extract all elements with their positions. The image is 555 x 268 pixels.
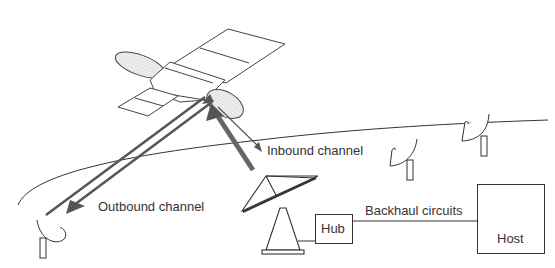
hub-dish-icon xyxy=(242,176,318,254)
outbound-arrowhead xyxy=(66,200,85,214)
remote-terminal-icon xyxy=(462,114,489,156)
remote-terminal-icon xyxy=(37,220,66,258)
remote-terminal-icon xyxy=(390,139,417,180)
inbound-channel-label: Inbound channel xyxy=(267,144,363,157)
diagram-canvas xyxy=(0,0,555,268)
backhaul-label: Backhaul circuits xyxy=(365,204,463,217)
satellite-icon xyxy=(112,29,285,124)
outbound-beam xyxy=(46,97,212,215)
outbound-channel-label: Outbound channel xyxy=(98,200,204,213)
host-label: Host xyxy=(497,232,524,245)
hub-label: Hub xyxy=(321,222,345,235)
